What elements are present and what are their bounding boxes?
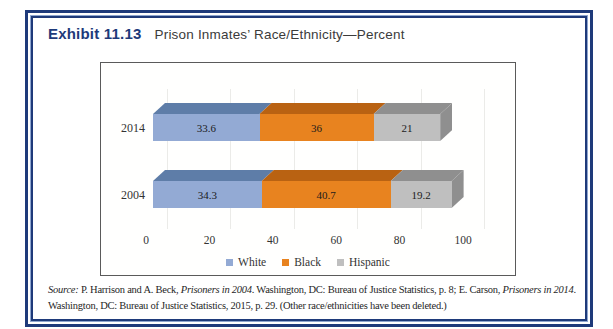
legend-item: Black: [282, 256, 321, 268]
source-citation-2: Prisoners in 2014: [503, 284, 574, 295]
bar-top-facet: [153, 170, 274, 181]
legend-label: Hispanic: [349, 256, 390, 268]
axis-tick-label: 100: [446, 234, 480, 246]
bar-value-label: 21: [401, 122, 412, 134]
source-label: Source:: [48, 284, 79, 295]
bar-value-label: 33.6: [197, 122, 216, 134]
exhibit-figure: Exhibit 11.13 Prison Inmates’ Race/Ethni…: [0, 0, 613, 329]
exhibit-title: Prison Inmates’ Race/Ethnicity—Percent: [154, 27, 404, 42]
exhibit-number: Exhibit 11.13: [48, 25, 141, 42]
exhibit-header: Exhibit 11.13 Prison Inmates’ Race/Ethni…: [48, 25, 405, 42]
bar-top-facet: [391, 170, 464, 181]
legend: WhiteBlackHispanic: [101, 256, 515, 268]
category-label: 2004: [107, 188, 145, 203]
bar-segment: 36: [260, 114, 374, 141]
bar-value-label: 36: [311, 122, 322, 134]
legend-item: Hispanic: [337, 256, 390, 268]
axis-tick-label: 60: [319, 234, 353, 246]
legend-swatch: [337, 259, 344, 266]
bar-top-facet: [374, 103, 453, 114]
legend-label: Black: [294, 256, 321, 268]
bar-value-label: 40.7: [317, 189, 336, 201]
legend-swatch: [226, 259, 233, 266]
category-label: 2014: [107, 121, 145, 136]
source-text-2: . Washington, DC: Bureau of Justice Stat…: [252, 284, 503, 295]
bar-value-label: 19.2: [412, 189, 431, 201]
legend-item: White: [226, 256, 266, 268]
bar-value-label: 34.3: [198, 189, 217, 201]
bar-segment: 21: [374, 114, 441, 141]
axis-tick-label: 80: [383, 234, 417, 246]
legend-swatch: [282, 259, 289, 266]
axis-tick-label: 40: [256, 234, 290, 246]
source-note: Source: P. Harrison and A. Beck, Prisone…: [48, 282, 576, 314]
bar-top-facet: [153, 103, 272, 114]
bar-top-facet: [260, 103, 386, 114]
chart-plot-area: 020406080100201433.63621200434.340.719.2…: [100, 62, 516, 276]
axis-tick-label: 20: [192, 234, 226, 246]
legend-label: White: [238, 256, 266, 268]
gridline: [484, 89, 485, 229]
source-citation-1: Prisoners in 2004: [181, 284, 252, 295]
bar-segment: 40.7: [262, 181, 391, 208]
bar-segment: 33.6: [153, 114, 260, 141]
bar-segment: 19.2: [391, 181, 452, 208]
bar-top-facet: [262, 170, 403, 181]
bar-segment: 34.3: [153, 181, 262, 208]
source-text-1: P. Harrison and A. Beck,: [79, 284, 181, 295]
axis-tick-label: 0: [129, 234, 163, 246]
